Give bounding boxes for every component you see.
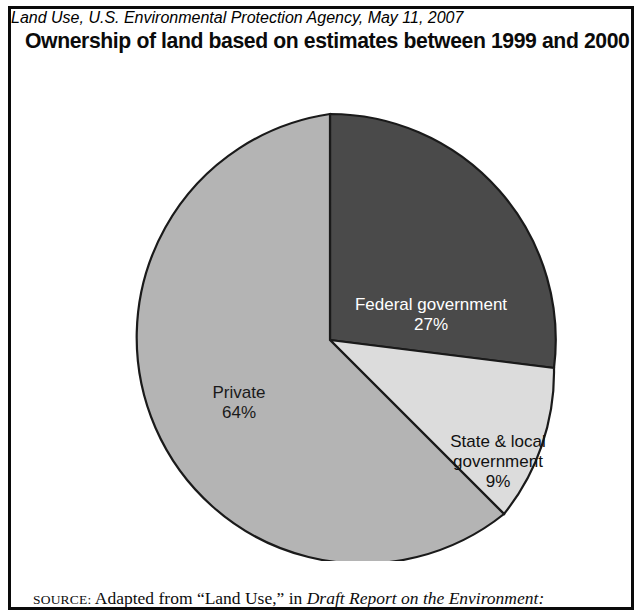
source-line-2: Land Use, U.S. Environmental Protection … — [11, 9, 631, 27]
figure-inner: Ownership of land based on estimates bet… — [11, 9, 631, 607]
pie-slice-federal-government[interactable] — [330, 114, 556, 368]
page-title: Ownership of land based on estimates bet… — [25, 29, 616, 54]
pie-chart-svg — [11, 61, 631, 561]
pie-chart: Federal government 27% State & local gov… — [11, 61, 631, 561]
source-line-1: SOURCE: Adapted from “Land Use,” in Draf… — [33, 588, 544, 608]
source-publication-title: Draft Report on the Environment: — [307, 588, 545, 608]
figure-frame: Ownership of land based on estimates bet… — [8, 6, 634, 610]
source-note: SOURCE: Adapted from “Land Use,” in Draf… — [33, 587, 633, 611]
source-label: SOURCE: — [33, 592, 91, 607]
source-text-lead: Adapted from “Land Use,” in — [91, 588, 306, 608]
